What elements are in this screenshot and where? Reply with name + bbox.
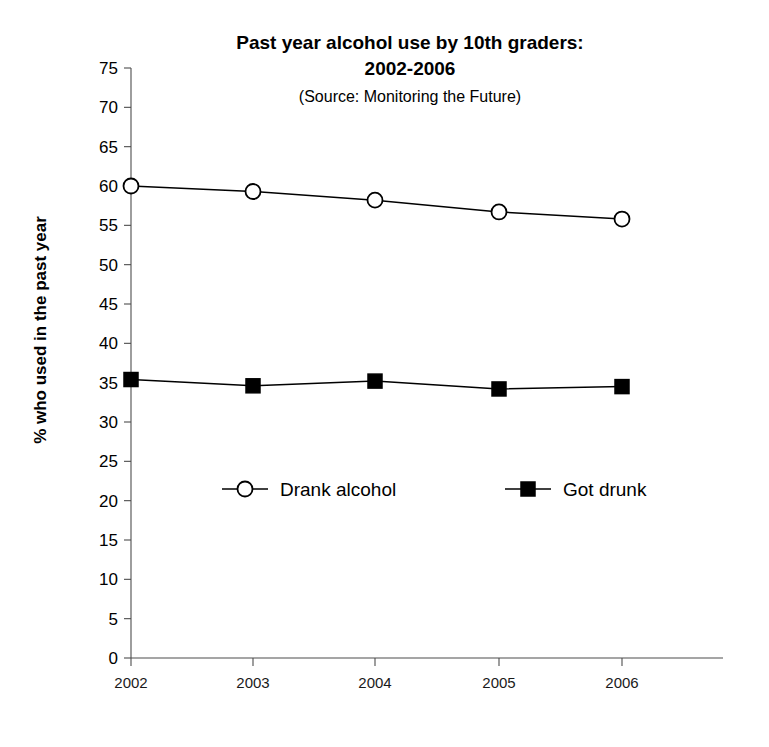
chart-container: Past year alcohol use by 10th graders: 2…: [0, 0, 769, 747]
data-point-marker-circle: [246, 184, 261, 199]
series-1: [124, 179, 630, 227]
y-tick-label: 0: [109, 649, 118, 668]
legend-marker-square: [521, 482, 535, 496]
data-point-marker-square: [124, 373, 138, 387]
legend-label: Got drunk: [563, 479, 647, 500]
y-tick-label: 45: [99, 295, 118, 314]
chart-legend: Drank alcoholGot drunk: [222, 479, 647, 500]
legend-item-2[interactable]: Got drunk: [505, 479, 647, 500]
y-tick-label: 55: [99, 216, 118, 235]
y-tick-label: 20: [99, 492, 118, 511]
legend-marker-circle: [238, 482, 253, 497]
y-tick-label: 75: [99, 59, 118, 78]
legend-item-1[interactable]: Drank alcohol: [222, 479, 396, 500]
legend-label: Drank alcohol: [280, 479, 396, 500]
data-point-marker-circle: [615, 212, 630, 227]
x-axis-ticks: 20022003200420052006: [114, 658, 638, 691]
data-point-marker-square: [368, 374, 382, 388]
y-tick-label: 35: [99, 374, 118, 393]
data-point-marker-circle: [124, 179, 139, 194]
y-axis-ticks: 051015202530354045505560657075: [99, 59, 131, 668]
x-tick-label: 2004: [358, 674, 391, 691]
y-tick-label: 60: [99, 177, 118, 196]
x-tick-label: 2003: [236, 674, 269, 691]
data-point-marker-square: [492, 382, 506, 396]
y-tick-label: 40: [99, 334, 118, 353]
data-point-marker-circle: [368, 193, 383, 208]
y-tick-label: 50: [99, 256, 118, 275]
y-tick-label: 15: [99, 531, 118, 550]
x-tick-label: 2002: [114, 674, 147, 691]
x-tick-label: 2006: [605, 674, 638, 691]
x-tick-label: 2005: [482, 674, 515, 691]
y-tick-label: 5: [109, 610, 118, 629]
data-point-marker-square: [615, 380, 629, 394]
y-tick-label: 25: [99, 452, 118, 471]
data-point-marker-square: [246, 379, 260, 393]
y-tick-label: 10: [99, 570, 118, 589]
y-tick-label: 30: [99, 413, 118, 432]
y-tick-label: 70: [99, 98, 118, 117]
y-tick-label: 65: [99, 138, 118, 157]
plot-area: 051015202530354045505560657075 200220032…: [0, 0, 769, 747]
data-point-marker-circle: [492, 204, 507, 219]
series-layer: [124, 179, 630, 396]
series-2: [124, 373, 629, 396]
